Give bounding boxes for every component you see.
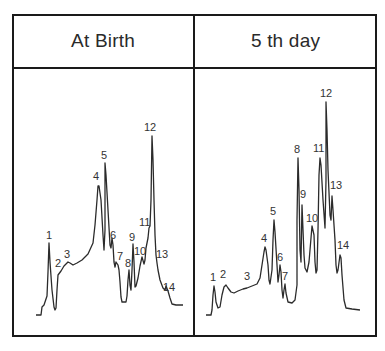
peak-label-3: 3 — [244, 270, 250, 282]
peak-label-1: 1 — [46, 229, 52, 241]
peak-label-4: 4 — [93, 170, 99, 182]
peak-label-9: 9 — [129, 231, 135, 243]
peak-label-10: 10 — [134, 245, 146, 257]
peak-label-10: 10 — [306, 212, 318, 224]
peak-label-4: 4 — [261, 232, 267, 244]
peak-label-7: 7 — [282, 270, 288, 282]
peak-label-11: 11 — [313, 142, 324, 154]
peak-label-2: 2 — [55, 257, 61, 269]
peak-labels-at-birth: 1 2 3 4 5 6 7 8 9 10 11 12 13 14 — [46, 121, 175, 293]
peak-label-8: 8 — [294, 143, 300, 155]
peak-label-8: 8 — [125, 257, 131, 269]
peak-label-14: 14 — [163, 281, 175, 293]
chromatogram-plots: 1 2 3 4 5 6 7 8 9 10 11 12 13 14 1 2 3 4… — [0, 0, 385, 351]
peak-label-11: 11 — [139, 216, 150, 228]
peak-label-13: 13 — [330, 179, 342, 191]
peak-label-14: 14 — [337, 239, 349, 251]
peak-label-5: 5 — [101, 149, 107, 161]
peak-label-6: 6 — [277, 251, 283, 263]
peak-label-3: 3 — [64, 248, 70, 260]
trace-at-birth — [36, 136, 183, 315]
peak-label-12: 12 — [320, 87, 332, 99]
peak-label-13: 13 — [156, 248, 168, 260]
peak-label-12: 12 — [144, 121, 156, 133]
peak-label-6: 6 — [110, 229, 116, 241]
peak-label-5: 5 — [270, 205, 276, 217]
trace-line-5th-day — [206, 102, 360, 315]
peak-label-7: 7 — [117, 250, 123, 262]
trace-line-at-birth — [36, 136, 183, 315]
peak-label-9: 9 — [300, 188, 306, 200]
peak-label-2: 2 — [220, 268, 226, 280]
trace-5th-day — [206, 102, 360, 315]
peak-label-1: 1 — [210, 271, 216, 283]
